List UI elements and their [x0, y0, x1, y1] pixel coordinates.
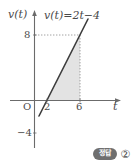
y-axis-arrow-icon — [32, 10, 37, 16]
y-axis-label: v(t) — [8, 9, 27, 20]
x-tick-label-2: 2 — [44, 102, 50, 112]
x-tick-label-6: 6 — [76, 102, 82, 112]
answer-choice-number: ② — [120, 149, 130, 160]
velocity-time-graph-figure: v(t) v(t)=2t−4 t O 8 −4 2 6 — [0, 0, 133, 164]
equation-label: v(t)=2t−4 — [44, 10, 100, 21]
y-tick-label-8: 8 — [24, 30, 30, 40]
origin-label: O — [23, 102, 31, 112]
answer-area: 정답 ② — [93, 148, 130, 160]
x-axis-label: t — [113, 101, 117, 112]
answer-badge: 정답 — [93, 148, 118, 160]
graph-canvas — [0, 0, 133, 164]
y-tick-label-minus4: −4 — [17, 128, 32, 138]
